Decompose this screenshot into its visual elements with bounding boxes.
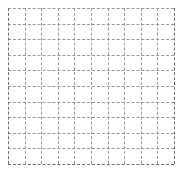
gridline-horizontal bbox=[8, 102, 174, 103]
gridline-vertical bbox=[108, 8, 109, 164]
gridline-horizontal bbox=[8, 39, 174, 40]
gridline-horizontal bbox=[8, 164, 174, 165]
gridline-vertical bbox=[25, 8, 26, 164]
gridline-horizontal bbox=[8, 86, 174, 87]
gridline-horizontal bbox=[8, 133, 174, 134]
gridline-vertical bbox=[141, 8, 142, 164]
gridline-vertical bbox=[8, 8, 9, 164]
gridline-horizontal bbox=[8, 24, 174, 25]
gridline-vertical bbox=[41, 8, 42, 164]
axes-frame bbox=[8, 8, 174, 164]
gridline-horizontal bbox=[8, 8, 174, 9]
gridline-vertical bbox=[91, 8, 92, 164]
gridline-vertical bbox=[58, 8, 59, 164]
gridline-vertical bbox=[174, 8, 175, 164]
gridline-vertical bbox=[157, 8, 158, 164]
chart-figure bbox=[0, 0, 183, 171]
gridline-horizontal bbox=[8, 117, 174, 118]
gridline-vertical bbox=[124, 8, 125, 164]
gridline-horizontal bbox=[8, 55, 174, 56]
gridline-horizontal bbox=[8, 70, 174, 71]
gridline-vertical bbox=[74, 8, 75, 164]
plot-area bbox=[8, 8, 174, 164]
gridline-horizontal bbox=[8, 148, 174, 149]
